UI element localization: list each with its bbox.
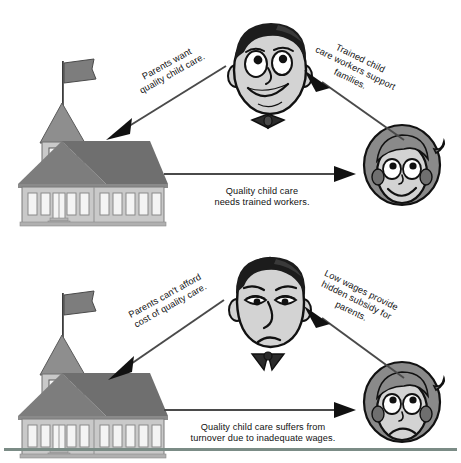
label-school-to-worker: Quality child care needs trained workers… — [178, 186, 346, 209]
bottom-diagram: Parents can't afford cost of quality car… — [0, 232, 461, 463]
label-school-to-worker-2: Quality child care suffers from turnover… — [166, 422, 360, 445]
arrow-school-to-worker — [164, 168, 358, 184]
footer-divider — [4, 448, 457, 451]
top-diagram: Parents want quality child care. Trained… — [0, 0, 461, 231]
arrow-school-to-worker-2 — [164, 404, 358, 420]
